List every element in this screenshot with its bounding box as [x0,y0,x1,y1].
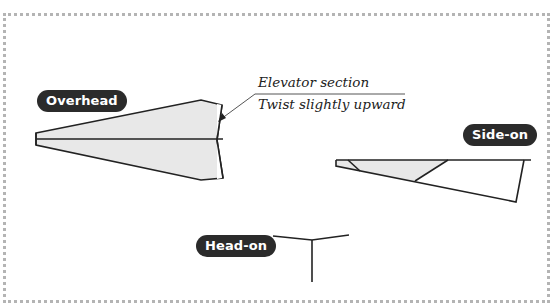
head-on-view [273,235,349,282]
overhead-label: Overhead [37,90,127,112]
overhead-plane-body [36,100,223,180]
overhead-view [36,100,223,180]
side-on-view [336,160,531,202]
head-on-wings [273,235,349,240]
side-on-label: Side-on [463,124,537,146]
callout-note: Twist slightly upward [258,96,406,112]
callout-title: Elevator section [258,74,369,90]
head-on-label: Head-on [196,235,276,257]
paper-plane-illustration [0,0,552,304]
